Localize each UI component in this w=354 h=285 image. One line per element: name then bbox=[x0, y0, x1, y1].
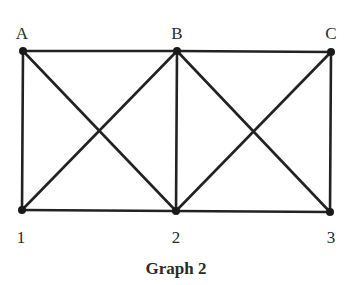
node-label-C: C bbox=[325, 25, 336, 42]
edge-1-2 bbox=[22, 210, 176, 211]
node-C bbox=[327, 48, 335, 56]
node-B bbox=[173, 47, 181, 55]
graph-caption: Graph 2 bbox=[146, 260, 207, 277]
graph-diagram: ABC123 Graph 2 bbox=[0, 0, 354, 285]
node-label-3: 3 bbox=[327, 229, 336, 246]
edge-2-3 bbox=[176, 211, 330, 212]
node-1 bbox=[18, 206, 26, 214]
edge-C-3 bbox=[330, 52, 331, 212]
node-2 bbox=[172, 207, 180, 215]
edge-B-C bbox=[177, 51, 331, 52]
node-label-B: B bbox=[171, 25, 182, 42]
node-label-1: 1 bbox=[17, 229, 26, 246]
edge-A-1 bbox=[22, 51, 23, 210]
edges-layer bbox=[22, 51, 331, 212]
edge-B-2 bbox=[176, 51, 177, 211]
node-A bbox=[19, 47, 27, 55]
node-3 bbox=[326, 208, 334, 216]
node-label-A: A bbox=[16, 25, 28, 42]
node-label-2: 2 bbox=[172, 229, 181, 246]
